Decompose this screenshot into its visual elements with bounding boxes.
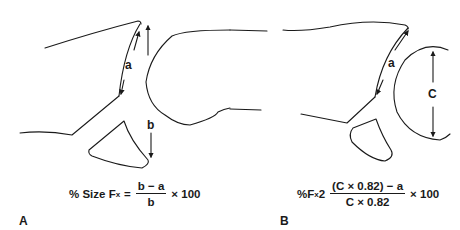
formula-a-prefix: % Size F	[69, 188, 116, 200]
formula-a-subscript: x	[116, 190, 120, 199]
panel-b-bulb-c	[394, 47, 450, 140]
panel-b-formula: %Fx 2 (C × 0.82) − a C × 0.82 × 100	[297, 180, 439, 208]
panel-a-letter: A	[19, 214, 28, 228]
formula-a-denominator: b	[148, 194, 155, 208]
panel-b-label-a: a	[388, 57, 395, 69]
panel-b-label-c: C	[428, 88, 437, 100]
panel-b-upper-contour	[283, 22, 408, 31]
formula-a-equals: =	[124, 188, 131, 200]
formula-a-suffix: × 100	[171, 188, 200, 200]
formula-b-denominator: C × 0.82	[346, 194, 390, 208]
panel-b-letter: B	[280, 214, 289, 228]
panel-a-lower-contour	[20, 96, 119, 135]
panel-a-formula: % Size Fx = b − a b × 100	[69, 180, 200, 208]
panel-b-lower-contour-left	[230, 109, 261, 110]
formula-b-prefix: %F	[297, 188, 314, 200]
panel-a-upper-contour	[45, 21, 141, 48]
panel-b-upper-contour-left	[230, 30, 267, 31]
panel-a-label-b: b	[147, 119, 154, 131]
formula-a-numerator: b − a	[136, 180, 167, 194]
formula-a-fraction: b − a b	[136, 180, 167, 208]
formula-b-fraction: (C × 0.82) − a C × 0.82	[330, 180, 405, 208]
panel-b-lower-contour	[301, 97, 375, 123]
panel-a-bulb	[146, 30, 230, 125]
panel-a-fragment	[89, 121, 149, 168]
panel-a-arrow-a-lower	[121, 80, 124, 94]
formula-b-equals: 2	[319, 188, 325, 200]
panel-b-drawing	[230, 22, 450, 161]
panel-a-label-a: a	[125, 59, 132, 71]
panel-b-fragment	[350, 119, 392, 161]
formula-b-suffix: × 100	[410, 188, 439, 200]
panel-a-drawing	[20, 21, 230, 168]
formula-b-numerator: (C × 0.82) − a	[330, 180, 405, 194]
